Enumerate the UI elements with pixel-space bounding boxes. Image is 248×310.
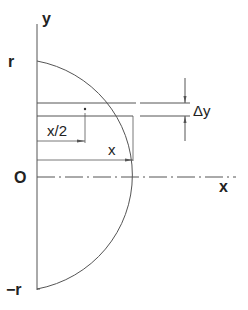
y-axis-label: y <box>42 10 51 27</box>
width-label: x <box>108 141 116 158</box>
centroid-dot <box>84 108 86 110</box>
semicircle-arc <box>37 61 132 289</box>
semicircle-diagram: y r −r O x Δy x/2 x <box>0 0 248 310</box>
half-width-arrowhead <box>77 140 85 143</box>
half-width-label: x/2 <box>47 122 67 139</box>
x-axis-label: x <box>219 178 228 195</box>
dy-arrowhead-bottom <box>184 116 187 123</box>
origin-label: O <box>14 169 26 186</box>
minus-r-label: −r <box>6 281 22 298</box>
delta-y-label: Δy <box>193 102 211 119</box>
dy-arrowhead-top <box>184 96 187 103</box>
r-label: r <box>8 53 14 70</box>
